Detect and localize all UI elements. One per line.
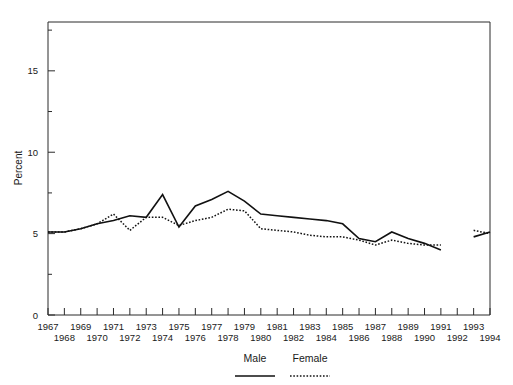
- x-tick-label-top: 1969: [70, 321, 91, 332]
- x-tick-label-top: 1985: [332, 321, 353, 332]
- x-tick-label-top: 1973: [136, 321, 157, 332]
- x-tick-label-top: 1975: [168, 321, 189, 332]
- x-tick-label-bottom: 1986: [348, 332, 369, 343]
- y-axis-ticks: [48, 30, 55, 315]
- x-tick-label-top: 1989: [398, 321, 419, 332]
- x-tick-label-bottom: 1990: [414, 332, 435, 343]
- x-tick-label-bottom: 1974: [152, 332, 173, 343]
- x-tick-label-bottom: 1978: [218, 332, 239, 343]
- plot-frame-border: [48, 22, 490, 315]
- series-line-male: [48, 191, 441, 250]
- y-axis-title: Percent: [13, 151, 24, 186]
- x-axis-ticks: [48, 308, 490, 315]
- chart-legend: MaleFemale: [235, 352, 330, 376]
- legend-label-female: Female: [292, 352, 327, 364]
- y-tick-label: 5: [33, 228, 38, 239]
- x-tick-label-top: 1991: [430, 321, 451, 332]
- x-axis-tick-labels-top: 1967196919711973197519771979198119831985…: [37, 321, 484, 332]
- chart-series-group: [48, 191, 490, 250]
- y-tick-label: 15: [27, 65, 38, 76]
- x-tick-label-bottom: 1970: [87, 332, 108, 343]
- x-tick-label-top: 1987: [365, 321, 386, 332]
- y-axis-tick-labels: 051015: [27, 65, 38, 320]
- x-tick-label-bottom: 1994: [479, 332, 500, 343]
- chart-figure: 051015 Percent 1967196919711973197519771…: [0, 0, 513, 385]
- y-tick-label: 10: [27, 147, 38, 158]
- x-tick-label-top: 1977: [201, 321, 222, 332]
- legend-label-male: Male: [244, 352, 267, 364]
- x-tick-label-top: 1983: [299, 321, 320, 332]
- x-tick-label-bottom: 1972: [119, 332, 140, 343]
- plot-frame: [48, 22, 490, 315]
- y-tick-label: 0: [33, 310, 38, 321]
- x-tick-label-bottom: 1976: [185, 332, 206, 343]
- x-tick-label-bottom: 1992: [447, 332, 468, 343]
- series-line-female: [48, 209, 441, 245]
- x-tick-label-bottom: 1968: [54, 332, 75, 343]
- x-tick-label-bottom: 1988: [381, 332, 402, 343]
- x-tick-label-bottom: 1980: [250, 332, 271, 343]
- x-tick-label-top: 1993: [463, 321, 484, 332]
- x-tick-label-top: 1971: [103, 321, 124, 332]
- x-tick-label-bottom: 1982: [283, 332, 304, 343]
- x-tick-label-top: 1981: [267, 321, 288, 332]
- x-tick-label-top: 1967: [37, 321, 58, 332]
- x-axis-tick-labels-bottom: 1968197019721974197619781980198219841986…: [54, 332, 501, 343]
- x-tick-label-top: 1979: [234, 321, 255, 332]
- x-tick-label-bottom: 1984: [316, 332, 337, 343]
